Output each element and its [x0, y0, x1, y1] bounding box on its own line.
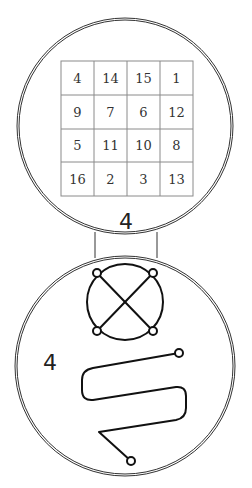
grid-cell: 6	[139, 105, 147, 120]
grid-cell: 4	[73, 71, 81, 86]
grid-cell: 15	[135, 71, 152, 86]
grid-cell: 5	[73, 138, 81, 153]
grid-cell: 13	[168, 172, 185, 187]
grid-cell: 14	[102, 71, 119, 86]
bottom-number-label: 4	[43, 350, 57, 375]
talisman-diagram: 4 14 15 1 9 7 6 12 5 11 10 8 16 2 3 13 4	[0, 0, 252, 488]
top-medallion: 4 14 15 1 9 7 6 12 5 11 10 8 16 2 3 13 4	[17, 18, 233, 234]
grid-cell: 10	[135, 138, 152, 153]
grid-cell: 2	[106, 172, 114, 187]
connector-band	[95, 232, 157, 258]
grid-cell: 3	[139, 172, 147, 187]
grid-cell: 7	[106, 105, 114, 120]
grid-cell: 11	[102, 138, 119, 153]
grid-cell: 1	[172, 71, 180, 86]
magic-square-grid: 4 14 15 1 9 7 6 12 5 11 10 8 16 2 3 13	[61, 61, 193, 196]
grid-cell: 9	[73, 105, 81, 120]
grid-cell: 8	[172, 138, 180, 153]
grid-cell: 16	[69, 172, 86, 187]
grid-cell: 12	[168, 105, 185, 120]
bottom-medallion: 4	[15, 256, 235, 476]
top-number-label: 4	[119, 209, 133, 234]
